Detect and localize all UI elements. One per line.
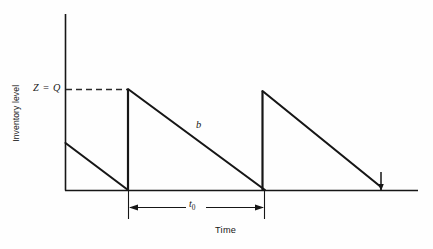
inventory-slope-initial (66, 143, 129, 190)
depletion-rate-label: b (196, 120, 201, 131)
t0-arrowhead-left-icon (129, 204, 138, 210)
chart-plot-area (0, 0, 433, 249)
y-axis-label-text: Inventory level (12, 64, 21, 162)
inventory-level-chart: Inventory level Z = Q b t0 Time (0, 0, 433, 249)
inventory-slope-cycle-2 (263, 91, 382, 187)
cycle-time-label: t0 (189, 199, 196, 211)
inventory-slope-cycle-1 (128, 89, 265, 190)
y-axis-label: Inventory level (10, 52, 24, 168)
t0-arrowhead-right-icon (255, 204, 264, 210)
cycle-time-subscript: 0 (192, 203, 196, 212)
x-axis-label: Time (215, 226, 236, 235)
peak-level-label: Z = Q (33, 83, 61, 93)
